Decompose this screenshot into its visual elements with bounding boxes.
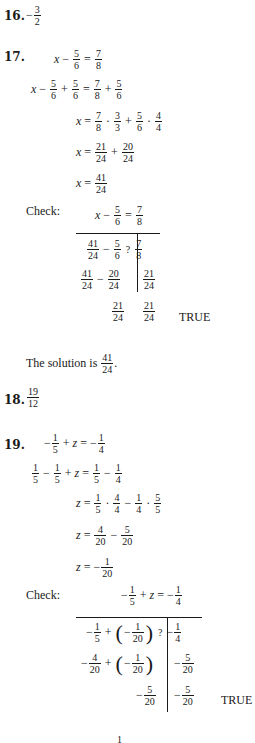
problem-18-answer: 1912 (26, 386, 40, 409)
p19-check-rule (76, 617, 202, 618)
p17-check-label: Check: (26, 204, 60, 219)
partial-next-line: 1 (117, 734, 122, 743)
p17-check-header: x− 56 = 78 (95, 204, 144, 227)
p19-step-4: z= 420 − 520 (76, 524, 134, 547)
p17-verdict: TRUE (179, 310, 210, 325)
p17-step-3: x= 78 · 33 + 56 · 44 (76, 110, 163, 133)
p19-step-3: z= 15 · 44 − 14 · 55 (76, 492, 162, 515)
p17-check-row-2: 4124 − 2024 (80, 268, 121, 291)
p19-check-row-1: − 15 + (− 120 ) ? − 14 (86, 621, 182, 644)
problem-16-answer: − 32 (26, 4, 42, 27)
p19-verdict: TRUE (221, 693, 252, 708)
p19-step-5: z=− 120 (76, 556, 114, 579)
p19-check-row-2-right: − 520 (174, 652, 195, 675)
p19-check-header: − 15 +z =− 14 (121, 584, 183, 607)
p17-check-row-2-right: 2124 (142, 268, 156, 291)
p19-check-row-3-left: − 520 (136, 684, 157, 707)
problem-18-number: 18. (4, 393, 25, 407)
problem-16-number: 16. (4, 9, 25, 23)
p19-step-2: 15 − 15 +z = 15 − 14 (31, 462, 123, 485)
p17-step-2: x− 56 + 56 = 78 + 56 (31, 78, 123, 101)
problem-19-number: 19. (4, 438, 25, 452)
p17-step-5: x= 4124 (76, 172, 108, 195)
p19-step-1: − 15 +z =− 14 (44, 432, 106, 455)
p17-check-row-3-right: 2124 (142, 300, 156, 323)
p17-solution: The solution is 4124. (26, 352, 117, 375)
p17-check-row-1-left: 4124 − 56 ? 78 (86, 238, 143, 261)
p17-step-4: x= 2124 + 2024 (76, 141, 135, 164)
p19-check-row-3-right: − 520 (174, 684, 195, 707)
p17-step-1: x− 56 = 78 (54, 48, 103, 71)
p17-check-row-3-left: 2124 (111, 300, 125, 323)
p19-check-label: Check: (26, 588, 60, 603)
problem-17-number: 17. (4, 50, 25, 64)
p19-check-row-2-left: − 420 + (− 120 ) (81, 652, 154, 675)
p17-check-rule (76, 233, 160, 234)
